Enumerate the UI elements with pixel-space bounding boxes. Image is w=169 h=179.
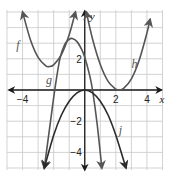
curve-h bbox=[86, 12, 150, 90]
y-axis-label: y bbox=[89, 10, 95, 22]
y-tick-label: −2 bbox=[70, 116, 82, 127]
function-label-f: f bbox=[16, 38, 21, 52]
function-graph: −4242−2−4 x y fghj bbox=[0, 0, 169, 179]
x-axis-label: x bbox=[159, 93, 165, 105]
y-tick-label: 2 bbox=[76, 54, 82, 65]
tick-labels: −4242−2−4 bbox=[17, 54, 150, 159]
x-tick-label: 4 bbox=[144, 94, 150, 105]
function-label-h: h bbox=[132, 57, 138, 71]
y-tick-label: −4 bbox=[70, 147, 82, 158]
x-tick-label: 2 bbox=[113, 94, 119, 105]
x-tick-label: −4 bbox=[17, 94, 29, 105]
function-label-j: j bbox=[117, 123, 123, 137]
function-label-g: g bbox=[46, 73, 52, 87]
